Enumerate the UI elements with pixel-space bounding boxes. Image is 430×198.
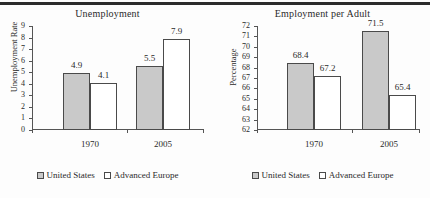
legend-swatch-icon-advanced-europe [104, 172, 111, 179]
y-axis-tick-label: 71 [242, 30, 250, 41]
y-axis-tick-label: 68 [242, 62, 250, 73]
y-axis-tick: 7 [29, 49, 32, 50]
y-axis-tick-label: 65 [242, 93, 250, 104]
chart-legend: United States Advanced Europe [0, 170, 215, 180]
y-axis-tick-label: 6 [21, 55, 25, 66]
legend-entry-advanced-europe: Advanced Europe [319, 170, 394, 180]
chart-title: Unemployment [0, 8, 215, 19]
y-axis-tick-label: 7 [21, 43, 25, 54]
bar-2005-united-states [136, 66, 163, 130]
y-axis-tick: 67 [254, 78, 257, 79]
x-axis-tick [352, 130, 353, 133]
y-axis-tick-label: 2 [21, 101, 25, 112]
y-axis-tick: 65 [254, 99, 257, 100]
y-axis-tick: 3 [29, 95, 32, 96]
y-axis-tick-label: 66 [242, 82, 250, 93]
y-axis-label: Unemployment Rate [9, 21, 19, 93]
y-axis-tick: 68 [254, 68, 257, 69]
bar-value-label: 65.4 [383, 82, 422, 92]
y-axis-tick: 70 [254, 47, 257, 48]
legend-label-advanced-europe: Advanced Europe [114, 170, 179, 180]
plot-area: 01234567894.94.15.57.9 [32, 26, 204, 130]
x-axis-category-label: 2005 [133, 139, 193, 149]
y-axis-tick: 9 [29, 26, 32, 27]
x-axis-category-label: 1970 [284, 139, 344, 149]
bar-value-label: 7.9 [157, 26, 196, 36]
y-axis-tick-label: 3 [21, 89, 25, 100]
figure-container: Unemployment Unemployment Rate 012345678… [0, 0, 430, 198]
legend-swatch-icon-advanced-europe [319, 172, 326, 179]
x-axis-tick [127, 130, 128, 133]
y-axis-tick-label: 4 [21, 78, 25, 89]
y-axis-tick: 2 [29, 107, 32, 108]
y-axis-label: Percentage [228, 36, 238, 98]
y-axis-tick-label: 69 [242, 51, 250, 62]
y-axis-tick-label: 0 [21, 124, 25, 135]
x-axis-category-label: 2005 [359, 139, 419, 149]
bar-1970-united-states [63, 73, 90, 130]
legend-entry-advanced-europe: Advanced Europe [104, 170, 179, 180]
y-axis-tick-label: 1 [21, 112, 25, 123]
y-axis-tick-label: 64 [242, 103, 250, 114]
bar-2005-united-states [362, 31, 389, 130]
y-axis-tick-label: 8 [21, 32, 25, 43]
bar-1970-advanced-europe [314, 76, 341, 130]
chart-panel-unemployment: Unemployment Unemployment Rate 012345678… [0, 0, 215, 198]
legend-swatch-icon-united-states [252, 172, 259, 179]
x-axis-category-label: 1970 [60, 139, 120, 149]
y-axis-tick: 5 [29, 72, 32, 73]
plot-area: 626364656667686970717268.467.271.565.4 [257, 26, 420, 130]
bar-value-label: 4.1 [84, 70, 123, 80]
chart-legend: United States Advanced Europe [215, 170, 430, 180]
y-axis-tick-label: 70 [242, 41, 250, 52]
y-axis-tick-label: 72 [242, 20, 250, 31]
y-axis-tick: 69 [254, 57, 257, 58]
legend-entry-united-states: United States [252, 170, 310, 180]
x-axis-tick [203, 130, 204, 133]
y-axis-tick: 1 [29, 118, 32, 119]
x-axis-tick [32, 130, 33, 133]
bar-value-label: 71.5 [356, 18, 395, 28]
y-axis-tick: 72 [254, 26, 257, 27]
y-axis-tick-label: 62 [242, 124, 250, 135]
legend-label-united-states: United States [262, 170, 310, 180]
y-axis-tick: 6 [29, 61, 32, 62]
x-axis-tick [257, 130, 258, 133]
legend-swatch-icon-united-states [37, 172, 44, 179]
y-axis-tick-label: 5 [21, 66, 25, 77]
bar-1970-united-states [287, 63, 314, 130]
chart-panel-employment-per-adult: Employment per Adult Percentage 62636465… [215, 0, 430, 198]
y-axis-tick-label: 9 [21, 20, 25, 31]
legend-label-united-states: United States [47, 170, 95, 180]
bar-value-label: 68.4 [281, 50, 320, 60]
y-axis-line [257, 26, 258, 130]
y-axis-tick: 8 [29, 38, 32, 39]
y-axis-tick: 63 [254, 120, 257, 121]
bar-2005-advanced-europe [389, 95, 416, 130]
y-axis-tick: 71 [254, 36, 257, 37]
chart-title: Employment per Adult [215, 8, 430, 19]
bar-value-label: 67.2 [308, 63, 347, 73]
y-axis-tick: 4 [29, 84, 32, 85]
y-axis-tick: 64 [254, 109, 257, 110]
bar-2005-advanced-europe [163, 39, 190, 130]
y-axis-tick: 66 [254, 88, 257, 89]
legend-entry-united-states: United States [37, 170, 95, 180]
legend-label-advanced-europe: Advanced Europe [329, 170, 394, 180]
y-axis-tick-label: 67 [242, 72, 250, 83]
x-axis-tick [419, 130, 420, 133]
y-axis-line [32, 26, 33, 130]
bar-1970-advanced-europe [90, 83, 117, 130]
y-axis-tick-label: 63 [242, 114, 250, 125]
